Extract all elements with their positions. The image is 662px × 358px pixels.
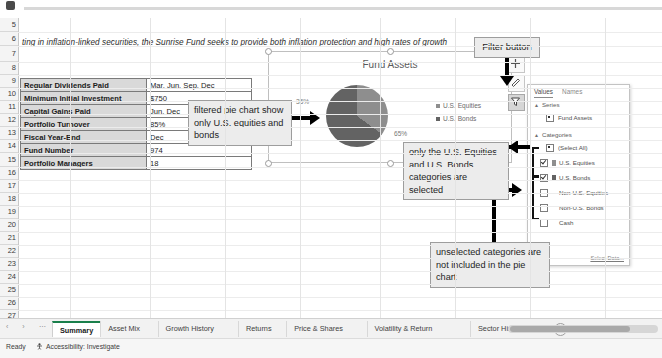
gridline-h bbox=[18, 258, 662, 259]
chart-title: Fund Assets bbox=[268, 59, 512, 70]
chart-elements-button[interactable] bbox=[508, 56, 525, 73]
row-header-5[interactable]: 5 bbox=[0, 18, 18, 32]
sheet-tab-returns[interactable]: Returns bbox=[238, 321, 279, 337]
row-header-11[interactable]: 11 bbox=[0, 101, 18, 114]
row-header-18[interactable]: 18 bbox=[0, 193, 18, 206]
legend-label: U.S. Bonds bbox=[443, 115, 476, 122]
checkbox-unchecked-icon[interactable] bbox=[540, 219, 548, 227]
top-strip bbox=[0, 0, 662, 18]
bracket-unselected-items bbox=[532, 176, 539, 220]
row-header-13[interactable]: 13 bbox=[0, 127, 18, 140]
gridline-h bbox=[18, 297, 662, 298]
resize-handle-tc[interactable] bbox=[387, 48, 394, 55]
chart-legend: U.S. EquitiesU.S. Bonds bbox=[436, 99, 481, 125]
gridline-v bbox=[605, 18, 606, 318]
gridline-h bbox=[18, 75, 662, 76]
resize-handle-tl[interactable] bbox=[265, 48, 272, 55]
gridline-h bbox=[18, 284, 662, 285]
accessibility-icon[interactable] bbox=[36, 343, 43, 351]
scrollbar-thumb[interactable] bbox=[510, 326, 630, 332]
row-header-26[interactable]: 26 bbox=[0, 297, 18, 310]
checkbox-checked-icon[interactable] bbox=[540, 174, 548, 182]
category-color-swatch-icon bbox=[552, 160, 556, 166]
row-header-19[interactable]: 19 bbox=[0, 206, 18, 219]
sheet-tab-growth-history[interactable]: Growth History bbox=[158, 321, 221, 337]
gridline-h bbox=[18, 206, 662, 207]
gridline-v bbox=[530, 18, 531, 318]
gridline-v bbox=[300, 18, 301, 318]
sheet-tab-volatility-return[interactable]: Volatility & Return bbox=[367, 321, 440, 337]
filter-series-item[interactable]: Fund Assets bbox=[546, 114, 592, 122]
fact-key[interactable]: Fiscal Year-End bbox=[21, 131, 147, 144]
fact-key[interactable]: Portfolio Turnover bbox=[21, 118, 147, 131]
worksheet-grid[interactable]: 5678910111213141516171819202122232425262… bbox=[0, 18, 662, 318]
row-header-23[interactable]: 23 bbox=[0, 258, 18, 271]
category-color-swatch-placeholder bbox=[552, 220, 556, 226]
chart-filter-pane[interactable]: ValuesNames ▲Series▲CategoriesFund Asset… bbox=[527, 84, 630, 266]
legend-swatch-icon bbox=[436, 104, 440, 108]
chevron-up-icon[interactable]: ▲ bbox=[534, 132, 539, 138]
horizontal-scrollbar[interactable] bbox=[508, 325, 658, 333]
data-label-bonds: 65% bbox=[394, 130, 407, 137]
callout-unselected-categories: unselected categories are not included i… bbox=[430, 242, 550, 288]
bracket-selected-items bbox=[532, 147, 539, 177]
filter-tab-names[interactable]: Names bbox=[562, 88, 582, 97]
row-header-15[interactable]: 15 bbox=[0, 153, 18, 167]
gridline-v bbox=[380, 18, 381, 318]
row-header-7[interactable]: 7 bbox=[0, 46, 18, 62]
gridline-h bbox=[18, 46, 662, 47]
filter-category-label: U.S. Equities bbox=[559, 159, 595, 166]
fact-key[interactable]: Fund Number bbox=[21, 144, 147, 157]
row-header-17[interactable]: 17 bbox=[0, 180, 18, 193]
filter-icon[interactable] bbox=[508, 94, 525, 111]
row-header-24[interactable]: 24 bbox=[0, 271, 18, 284]
sheet-tab-summary[interactable]: Summary bbox=[52, 321, 101, 337]
row-header-10[interactable]: 10 bbox=[0, 88, 18, 101]
gridline-h bbox=[18, 232, 662, 233]
gridline-h bbox=[18, 32, 662, 33]
filter-group-categories[interactable]: ▲Categories bbox=[534, 131, 572, 138]
fact-value[interactable]: Mar, Jun, Sep, Dec bbox=[147, 79, 252, 92]
sheet-tab-bar[interactable]: ‹ › ⋯ SummaryAsset MixGrowth HistoryRetu… bbox=[0, 318, 662, 339]
fact-key[interactable]: Regular Dividends Paid bbox=[21, 79, 147, 92]
gridline-v bbox=[455, 18, 456, 318]
status-accessibility[interactable]: Accessibility: Investigate bbox=[46, 343, 120, 350]
gridline-h bbox=[18, 271, 662, 272]
gridline-h bbox=[18, 167, 662, 168]
gridline-h bbox=[18, 88, 662, 89]
filter-category-item[interactable]: Cash bbox=[540, 219, 573, 227]
row-header-6[interactable]: 6 bbox=[0, 32, 18, 46]
gridline-h bbox=[18, 114, 662, 115]
app-icon bbox=[6, 1, 15, 10]
gridline-h bbox=[18, 127, 662, 128]
fact-key[interactable]: Capital Gains Paid bbox=[21, 105, 147, 118]
radio-icon[interactable] bbox=[546, 114, 554, 122]
row-header-21[interactable]: 21 bbox=[0, 232, 18, 245]
row-header-8[interactable]: 8 bbox=[0, 62, 18, 75]
row-header-9[interactable]: 9 bbox=[0, 75, 18, 88]
gridline-h bbox=[18, 193, 662, 194]
row-header-16[interactable]: 16 bbox=[0, 167, 18, 180]
row-header-25[interactable]: 25 bbox=[0, 284, 18, 297]
filter-select-all[interactable]: (Select All) bbox=[546, 144, 588, 152]
row-header-20[interactable]: 20 bbox=[0, 219, 18, 232]
fact-key[interactable]: Minimum Initial Investment bbox=[21, 92, 147, 105]
ribbon-placeholder bbox=[24, 7, 662, 10]
row-header-14[interactable]: 14 bbox=[0, 140, 18, 153]
checkbox-partial-icon[interactable] bbox=[546, 144, 554, 152]
sheet-tab-asset-mix[interactable]: Asset Mix bbox=[100, 321, 147, 337]
filter-group-series[interactable]: ▲Series bbox=[534, 101, 560, 108]
filter-tab-values[interactable]: Values bbox=[534, 88, 553, 98]
resize-handle-bl[interactable] bbox=[265, 160, 272, 167]
resize-handle-bc[interactable] bbox=[387, 160, 394, 167]
filter-category-item[interactable]: U.S. Bonds bbox=[540, 174, 590, 182]
filter-pane-tabs[interactable]: ValuesNames bbox=[534, 88, 591, 98]
sheet-tab-price-shares[interactable]: Price & Shares bbox=[286, 321, 350, 337]
row-header-22[interactable]: 22 bbox=[0, 245, 18, 258]
table-row[interactable]: Regular Dividends PaidMar, Jun, Sep, Dec bbox=[21, 79, 252, 92]
gridline-v bbox=[150, 18, 151, 318]
chevron-up-icon[interactable]: ▲ bbox=[534, 102, 539, 108]
row-header-12[interactable]: 12 bbox=[0, 114, 18, 127]
sheet-nav-buttons[interactable]: ‹ › ⋯ bbox=[6, 323, 52, 331]
gridline-h bbox=[18, 219, 662, 220]
